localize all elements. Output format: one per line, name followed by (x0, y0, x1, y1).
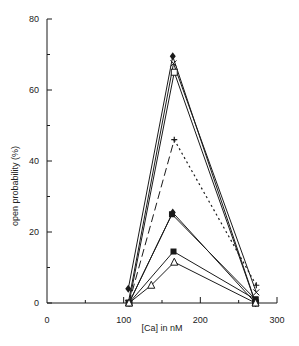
x-tick-label: 300 (269, 315, 284, 325)
series-filled-square (126, 249, 259, 306)
y-tick-label: 40 (29, 156, 39, 166)
y-axis-title: open probability (%) (10, 146, 20, 226)
series-line (129, 252, 256, 303)
series-line (129, 212, 256, 303)
filled-square-marker (171, 249, 177, 255)
filled-square-marker (169, 211, 175, 217)
open-triangle-marker (171, 258, 178, 265)
plus-marker (171, 137, 177, 143)
series-line (174, 140, 256, 286)
y-tick-label: 0 (34, 298, 39, 308)
series-line (128, 63, 256, 303)
line-chart: 0100200300020406080 [Ca] in nM open prob… (0, 0, 299, 346)
series-filled-square-2 (126, 211, 259, 306)
x-marker (253, 289, 259, 295)
plot-area (125, 52, 259, 307)
series-open-square (126, 69, 259, 306)
x-tick-label: 0 (44, 315, 49, 325)
series-line (129, 214, 256, 303)
x-tick-label: 200 (193, 315, 208, 325)
axes: 0100200300020406080 (29, 14, 285, 325)
y-tick-label: 60 (29, 85, 39, 95)
y-tick-label: 80 (29, 14, 39, 24)
series-plus (126, 137, 259, 306)
open-square-marker (171, 69, 177, 75)
x-tick-label: 100 (116, 315, 131, 325)
x-axis-title: [Ca] in nM (141, 323, 182, 333)
y-tick-label: 20 (29, 227, 39, 237)
series-filled-diamond-2 (126, 208, 259, 307)
diamond-marker (170, 52, 176, 60)
